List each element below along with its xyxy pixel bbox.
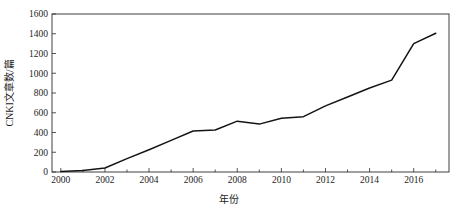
y-tick-label: 1000 (29, 69, 48, 79)
x-axis-title: 年份 (219, 193, 239, 205)
x-tick-label: 2000 (51, 175, 70, 185)
x-tick-label: 2008 (228, 175, 247, 185)
y-tick-label: 400 (34, 128, 49, 138)
chart-canvas: 200020022004200620082010201220142016 020… (0, 0, 458, 209)
x-tick-label: 2006 (184, 175, 203, 185)
x-tick-label: 2002 (95, 175, 114, 185)
y-tick-label: 200 (34, 148, 49, 158)
x-tick-label: 2010 (272, 175, 291, 185)
line-chart: 200020022004200620082010201220142016 020… (0, 0, 458, 209)
x-tick-label: 2016 (404, 175, 423, 185)
y-tick-label: 1200 (29, 49, 48, 59)
x-axis-tick-labels: 200020022004200620082010201220142016 (51, 175, 423, 185)
y-tick-label: 800 (34, 88, 49, 98)
x-tick-label: 2012 (316, 175, 335, 185)
x-tick-label: 2014 (360, 175, 379, 185)
y-axis-title: CNKI文章数/篇 (3, 59, 15, 126)
y-tick-label: 1400 (29, 29, 48, 39)
x-tick-label: 2004 (140, 175, 159, 185)
y-tick-label: 0 (43, 167, 48, 177)
y-tick-label: 1600 (29, 9, 48, 19)
y-tick-label: 600 (34, 108, 49, 118)
